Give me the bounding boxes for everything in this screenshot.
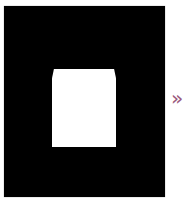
white-box-shape [52, 69, 116, 147]
image-frame [4, 6, 165, 197]
next-chevron-icon[interactable]: » [171, 88, 183, 108]
